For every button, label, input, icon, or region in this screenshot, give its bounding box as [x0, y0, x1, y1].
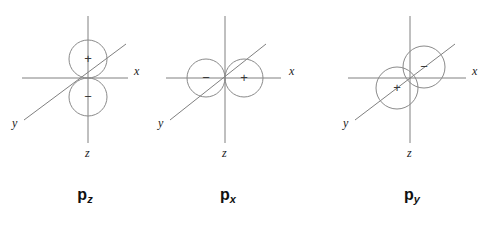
caption-pz-base: p [77, 186, 87, 203]
pz-axis-x-label: x [133, 64, 140, 78]
caption-px-base: p [220, 186, 230, 203]
py-axis-y-line [355, 44, 455, 120]
p-orbital-diagram-figure: + − x y z − + x y z + − x y z pz px [0, 0, 488, 225]
px-axis-y-line [170, 44, 266, 120]
px-lobe-negative-sign: − [202, 70, 210, 85]
px-axis-z-label: z [221, 146, 227, 160]
px-axis-x-label: x [288, 64, 295, 78]
orbital-diagram-px: − + x y z [157, 16, 295, 160]
caption-px-subscript: x [229, 193, 237, 205]
caption-pz-subscript: z [86, 193, 93, 205]
py-axis-x-label: x [471, 64, 478, 78]
pz-axis-z-label: z [84, 146, 90, 160]
orbital-diagram-pz: + − x y z [11, 16, 140, 160]
pz-axis-y-line [24, 44, 126, 120]
py-axis-y-label: y [342, 116, 349, 130]
px-lobe-positive-sign: + [240, 70, 248, 85]
caption-py-subscript: y [413, 193, 421, 205]
caption-pz: pz [77, 186, 93, 205]
pz-lobe-negative-sign: − [84, 89, 92, 104]
py-axis-z-label: z [406, 146, 412, 160]
caption-py-base: p [404, 186, 414, 203]
px-axis-y-label: y [157, 116, 164, 130]
caption-px: px [220, 186, 237, 205]
py-lobe-negative-sign: − [420, 59, 428, 74]
pz-axis-y-label: y [11, 116, 18, 130]
orbital-diagram-py: + − x y z [342, 16, 478, 160]
py-lobe-positive-sign: + [393, 80, 401, 95]
caption-py: py [404, 186, 421, 205]
pz-lobe-positive-sign: + [84, 51, 92, 66]
